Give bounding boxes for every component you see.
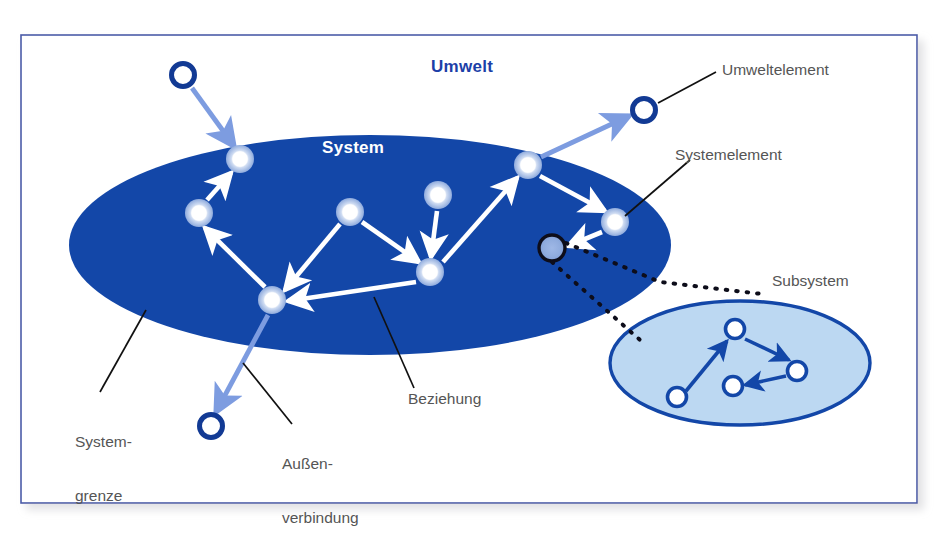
label-systemgrenze: System- grenze xyxy=(75,396,132,534)
detail-node xyxy=(724,377,743,396)
diagram-svg xyxy=(0,0,942,534)
label-systemgrenze-line2: grenze xyxy=(75,487,132,505)
system-ellipse xyxy=(69,135,671,355)
label-systemgrenze-line1: System- xyxy=(75,433,132,451)
label-beziehung: Beziehung xyxy=(408,390,481,408)
subsystem-node xyxy=(539,235,565,261)
label-aussenverbindung-line1: Außen- xyxy=(282,455,359,473)
environment-title: Umwelt xyxy=(431,57,493,77)
system-element-node xyxy=(601,208,629,236)
system-element-node xyxy=(258,286,286,314)
label-umweltelement: Umweltelement xyxy=(722,61,829,79)
system-element-node xyxy=(226,145,254,173)
system-element-node xyxy=(424,181,452,209)
label-aussenverbindung: Außen- verbindung xyxy=(282,418,359,534)
label-aussenverbindung-line2: verbindung xyxy=(282,509,359,527)
system-element-node xyxy=(416,258,444,286)
system-element-node xyxy=(185,199,213,227)
system-title: System xyxy=(322,138,384,158)
label-subsystem: Subsystem xyxy=(772,272,849,290)
system-element-node xyxy=(336,198,364,226)
label-systemelement: Systemelement xyxy=(675,146,782,164)
detail-node xyxy=(668,388,687,407)
diagram-canvas: Umwelt System Umweltelement Systemelemen… xyxy=(0,0,942,534)
system-element-node xyxy=(514,151,542,179)
detail-node xyxy=(726,320,745,339)
detail-node xyxy=(788,362,807,381)
